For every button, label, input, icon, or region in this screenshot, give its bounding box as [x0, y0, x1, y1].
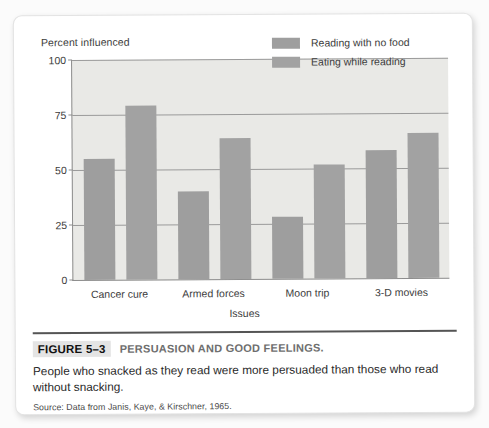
- x-axis-category-label: 3-D movies: [375, 286, 428, 298]
- bar: [125, 106, 157, 280]
- bar-group-container: [72, 58, 449, 280]
- figure-number: FIGURE 5–3: [33, 340, 111, 356]
- bar: [365, 150, 397, 278]
- x-axis-label: Issues: [16, 306, 474, 321]
- legend-swatch: [272, 37, 300, 48]
- legend-label: Eating while reading: [311, 55, 406, 68]
- bar: [313, 164, 345, 279]
- bar: [177, 191, 209, 279]
- bar: [83, 159, 115, 280]
- y-axis-tick-label: 25: [55, 219, 67, 231]
- y-axis-tick-label: 100: [48, 54, 66, 66]
- legend-item: Reading with no food: [272, 36, 410, 49]
- bar-chart: Percent influenced 0255075100 Cancer cur…: [14, 14, 474, 329]
- caption-source-text: Source: Data from Janis, Kaye, & Kirschn…: [33, 400, 457, 413]
- y-axis-label: Percent influenced: [41, 36, 130, 49]
- bar: [407, 133, 439, 278]
- bar: [219, 138, 251, 279]
- figure-title: PERSUASION AND GOOD FEELINGS.: [120, 341, 324, 354]
- y-axis-tick-label: 50: [55, 164, 67, 176]
- chart-legend: Reading with no foodEating while reading: [272, 36, 410, 75]
- x-axis-category-labels: Cancer cureArmed forcesMoon trip3-D movi…: [14, 14, 472, 17]
- caption-body-text: People who snacked as they read were mor…: [33, 360, 457, 396]
- legend-label: Reading with no food: [311, 36, 410, 49]
- legend-swatch: [272, 56, 300, 67]
- x-axis-category-label: Moon trip: [286, 286, 330, 298]
- caption-header: FIGURE 5–3 PERSUASION AND GOOD FEELINGS.: [33, 338, 457, 357]
- x-axis-category-label: Armed forces: [182, 287, 245, 299]
- y-axis-tick-label: 0: [62, 274, 68, 286]
- plot-area: 0255075100: [71, 58, 449, 281]
- x-axis-category-label: Cancer cure: [91, 288, 148, 300]
- legend-item: Eating while reading: [272, 55, 410, 68]
- bar: [272, 217, 303, 279]
- figure-caption: FIGURE 5–3 PERSUASION AND GOOD FEELINGS.…: [33, 330, 457, 413]
- figure-card: Percent influenced 0255075100 Cancer cur…: [13, 13, 475, 416]
- y-axis-tick-label: 75: [55, 109, 67, 121]
- caption-divider: [33, 330, 457, 334]
